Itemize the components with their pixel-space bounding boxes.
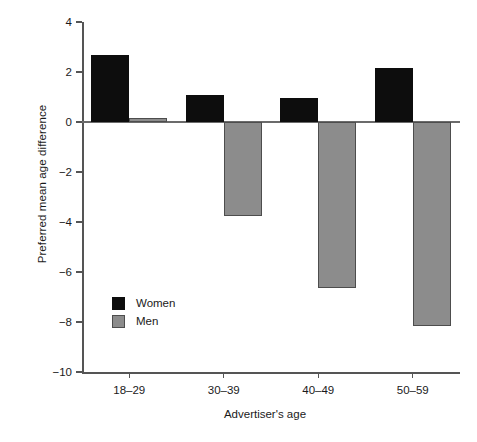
y-tick-label: −6 <box>28 264 72 280</box>
x-tick-mark <box>129 372 130 378</box>
y-tick-label: 2 <box>28 64 72 80</box>
x-tick-label: 50–59 <box>373 384 453 396</box>
legend-item-men: Men <box>112 312 175 330</box>
y-tick-label: −8 <box>28 314 72 330</box>
y-tick-label: −2 <box>28 164 72 180</box>
x-tick-label: 40–49 <box>278 384 358 396</box>
bar-men-40-49 <box>318 122 356 288</box>
bar-women-50-59 <box>375 68 413 122</box>
bar-women-40-49 <box>280 98 318 122</box>
x-tick-mark <box>412 372 413 378</box>
legend-item-women: Women <box>112 294 175 312</box>
y-tick-mark <box>76 221 82 222</box>
bar-men-50-59 <box>413 122 451 326</box>
x-tick-mark <box>223 372 224 378</box>
y-tick-mark <box>76 371 82 372</box>
legend-swatch-icon <box>112 297 125 310</box>
x-axis-title: Advertiser's age <box>70 408 460 420</box>
bar-women-18-29 <box>91 55 129 123</box>
y-tick-mark <box>76 121 82 122</box>
chart-legend: WomenMen <box>112 294 175 330</box>
bar-men-30-39 <box>224 122 262 216</box>
bar-women-30-39 <box>186 95 224 123</box>
y-tick-mark <box>76 321 82 322</box>
chart-figure: Preferred mean age difference 420−2−4−6−… <box>0 0 477 442</box>
y-tick-label: −10 <box>28 364 72 380</box>
x-tick-mark <box>318 372 319 378</box>
y-tick-label: 0 <box>28 114 72 130</box>
y-tick-label: 4 <box>28 14 72 30</box>
y-tick-mark <box>76 21 82 22</box>
x-tick-label: 30–39 <box>184 384 264 396</box>
y-tick-mark <box>76 171 82 172</box>
legend-label: Women <box>136 297 175 309</box>
y-tick-mark <box>76 271 82 272</box>
y-axis-line <box>82 22 84 372</box>
x-tick-label: 18–29 <box>89 384 169 396</box>
x-axis-line <box>82 372 460 374</box>
legend-label: Men <box>136 315 158 327</box>
y-tick-mark <box>76 71 82 72</box>
y-tick-label: −4 <box>28 214 72 230</box>
bar-men-18-29 <box>129 118 167 122</box>
legend-swatch-icon <box>112 315 125 328</box>
